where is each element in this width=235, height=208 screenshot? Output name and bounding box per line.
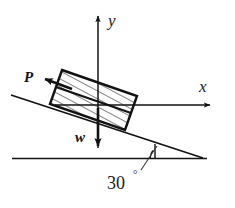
incline-angle-value: 30 [107,173,125,193]
applied-force-label: P [24,69,34,85]
inclined-plane-figure: y x P w 30 ° [0,0,235,208]
figure-canvas: y x P w 30 ° [0,0,235,208]
weight-force-label: w [75,129,86,145]
x-axis-label: x [198,77,207,96]
hatched-block [40,58,152,144]
degree-symbol: ° [133,168,137,180]
y-axis-label: y [106,11,116,30]
